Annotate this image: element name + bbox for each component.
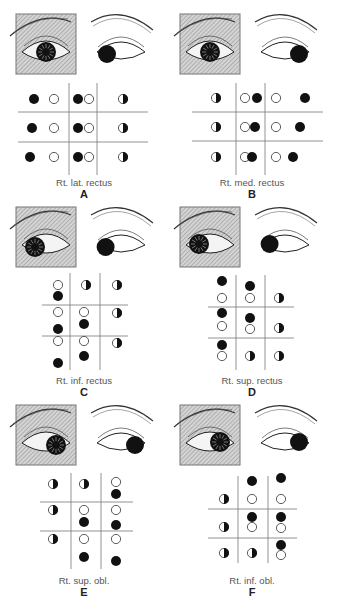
filled-dot (73, 152, 83, 162)
open-dot (84, 152, 93, 161)
diplopia-grid (208, 275, 294, 370)
open-dot (247, 522, 256, 531)
fellow-eye-illustration (91, 406, 153, 454)
fellow-eye-illustration (255, 15, 317, 63)
open-dot (53, 280, 62, 289)
panel-letter: D (168, 386, 336, 398)
panel-letter: E (0, 586, 168, 598)
filled-dot (79, 351, 89, 361)
half-filled-dot (79, 479, 89, 489)
fellow-eye-illustration (255, 406, 317, 451)
open-dot (271, 93, 280, 102)
diplopia-grid (18, 83, 148, 175)
open-dot (49, 123, 58, 132)
open-dot (111, 534, 120, 543)
panel-caption: Rt. lat. rectus (0, 177, 168, 188)
half-filled-dot (48, 479, 58, 489)
panel-caption: Rt. inf. obl. (168, 575, 336, 586)
open-dot (84, 123, 93, 132)
filled-dot (247, 476, 257, 486)
open-dot (240, 122, 249, 131)
half-filled-dot (274, 293, 284, 303)
filled-dot (217, 308, 227, 318)
filled-dot (295, 122, 305, 132)
filled-dot (250, 122, 260, 132)
diplopia-grid (42, 273, 128, 370)
filled-dot (217, 276, 227, 286)
half-filled-dot (247, 548, 257, 558)
filled-dot (25, 152, 35, 162)
panel-e (10, 405, 153, 569)
half-filled-dot (245, 351, 255, 361)
filled-dot (73, 123, 83, 133)
half-filled-dot (48, 534, 58, 544)
filled-dot (300, 93, 310, 103)
shaded-eye-illustration (10, 207, 76, 267)
open-dot (111, 505, 120, 514)
half-filled-dot (211, 122, 221, 132)
panel-d (174, 207, 317, 370)
shaded-eye-illustration (10, 14, 76, 74)
panel-letter: F (168, 586, 336, 598)
panel-letter: B (168, 188, 336, 200)
filled-dot (247, 152, 257, 162)
open-dot (276, 550, 285, 559)
open-dot (245, 324, 254, 333)
filled-dot (53, 358, 63, 368)
filled-dot (27, 123, 37, 133)
half-filled-dot (112, 308, 122, 318)
open-dot (247, 494, 256, 503)
half-filled-dot (48, 505, 58, 515)
panel-letter: C (0, 386, 168, 398)
fellow-eye-illustration (91, 208, 153, 256)
half-filled-dot (274, 351, 284, 361)
open-dot (271, 122, 280, 131)
filled-dot (111, 520, 121, 530)
half-filled-dot (219, 522, 229, 532)
filled-dot (73, 94, 83, 104)
open-dot (217, 351, 226, 360)
panel-caption: Rt. med. rectus (168, 177, 336, 188)
half-filled-dot (274, 323, 284, 333)
filled-dot (79, 319, 89, 329)
filled-dot (252, 93, 262, 103)
filled-dot (245, 281, 255, 291)
filled-dot (276, 473, 286, 483)
open-dot (276, 494, 285, 503)
filled-dot (276, 512, 286, 522)
filled-dot (217, 340, 227, 350)
open-dot (79, 307, 88, 316)
open-dot (240, 93, 249, 102)
half-filled-dot (219, 548, 229, 558)
panel-caption: Rt. inf. rectus (0, 375, 168, 386)
filled-dot (247, 512, 257, 522)
open-dot (217, 321, 226, 330)
filled-dot (79, 517, 89, 527)
filled-dot (276, 540, 286, 550)
filled-dot (79, 552, 89, 562)
open-dot (49, 152, 58, 161)
half-filled-dot (211, 152, 221, 162)
half-filled-dot (112, 338, 122, 348)
panel-caption: Rt. sup. rectus (168, 375, 336, 386)
shaded-eye-illustration (174, 14, 240, 74)
panel-c (10, 207, 153, 370)
panel-letter: A (0, 188, 168, 200)
panel-f (174, 405, 317, 563)
panel-caption: Rt. sup. obl. (0, 575, 168, 586)
open-dot (53, 307, 62, 316)
filled-dot (111, 489, 121, 499)
fellow-eye-illustration (255, 208, 317, 253)
filled-dot (53, 324, 63, 334)
fellow-eye-illustration (91, 15, 153, 63)
filled-dot (111, 556, 121, 566)
half-filled-dot (118, 94, 128, 104)
half-filled-dot (112, 280, 122, 290)
open-dot (111, 477, 120, 486)
open-dot (79, 534, 88, 543)
diplopia-grid (192, 83, 323, 175)
shaded-eye-illustration (174, 207, 240, 267)
open-dot (79, 336, 88, 345)
open-dot (245, 293, 254, 302)
half-filled-dot (219, 494, 229, 504)
